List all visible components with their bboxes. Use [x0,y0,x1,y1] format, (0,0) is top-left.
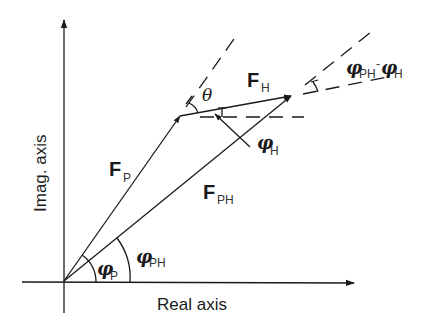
svg-text:H: H [394,67,403,81]
label-theta: θ [202,85,212,105]
svg-text:P: P [123,171,131,185]
svg-text:H: H [261,81,270,95]
svg-text:PH: PH [359,67,376,81]
arc-phi-diff [313,82,318,92]
label-fph: F PH [203,181,234,207]
arc-phi-ph [117,238,130,282]
arc-phi-p [82,255,96,282]
label-phi-ph-minus-phi-h: φ PH - φ H [346,57,403,81]
svg-text:PH: PH [217,193,234,207]
real-axis-label: Real axis [157,295,227,314]
real-axis [22,282,354,283]
imag-axis-label: Imag. axis [31,135,50,212]
phasor-diagram: Real axis Imag. axis F P F H F PH φ P φ … [0,0,440,331]
label-fp: F P [109,158,131,185]
phi-h-pointer [215,114,250,147]
label-phi-ph: φ PH [136,246,166,270]
phi-diff-tick [311,80,318,82]
svg-text:H: H [270,144,279,158]
svg-text:F: F [109,158,121,180]
vector-fh [180,96,291,116]
svg-text:PH: PH [149,256,166,270]
label-phi-p: φ P [97,258,118,283]
svg-text:θ: θ [202,85,212,105]
label-phi-h: φ H [257,132,279,158]
svg-text:P: P [110,269,118,283]
svg-text:F: F [203,181,215,203]
svg-text:F: F [247,69,259,91]
vector-fph [64,96,291,281]
label-fh: F H [247,69,270,95]
svg-text:-: - [376,57,380,71]
arc-theta [189,103,198,113]
